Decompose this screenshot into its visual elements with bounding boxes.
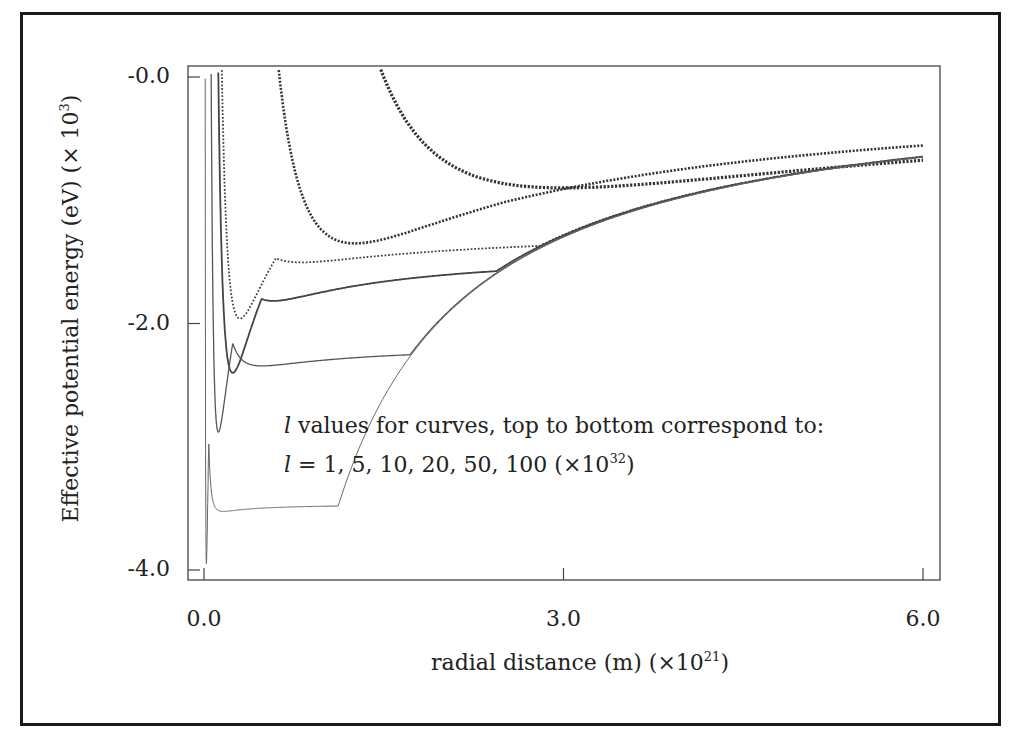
curve-l-50 — [279, 70, 923, 243]
x-tick-label: 3.0 — [524, 606, 604, 631]
y-tick-label: -0.0 — [100, 63, 170, 88]
curve-l-10 — [218, 73, 923, 373]
y-axis-label: Effective potential energy (eV) (× 103) — [58, 24, 83, 594]
curve-l-1 — [205, 79, 923, 564]
curves — [205, 70, 923, 564]
y-tick-label: -2.0 — [100, 310, 170, 335]
x-tick-label: 6.0 — [883, 606, 963, 631]
axis-ticks — [188, 77, 923, 580]
y-tick-label: -4.0 — [100, 556, 170, 581]
plot-area — [0, 0, 1012, 744]
curve-l-5 — [211, 74, 923, 432]
curve-l-20 — [222, 70, 923, 319]
x-axis-label: radial distance (m) (×1021) — [300, 650, 860, 675]
annotation-line-2: l = 1, 5, 10, 20, 50, 100 (×1032) — [284, 452, 635, 477]
curve-l-100 — [381, 70, 923, 188]
annotation-line-1: l values for curves, top to bottom corre… — [284, 413, 824, 438]
x-tick-label: 0.0 — [164, 606, 244, 631]
plot-box — [188, 66, 940, 580]
